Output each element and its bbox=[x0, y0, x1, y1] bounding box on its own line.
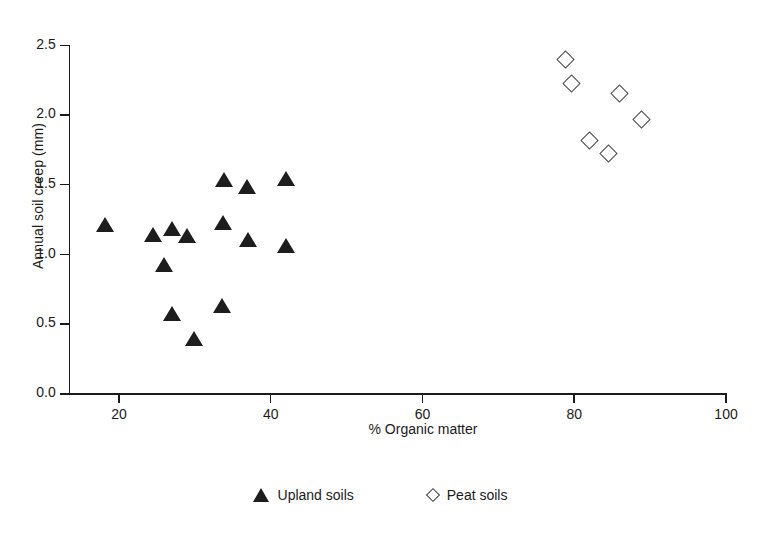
data-point-upland-soils bbox=[239, 232, 257, 247]
data-point-upland-soils bbox=[96, 217, 114, 232]
data-point-upland-soils bbox=[214, 215, 232, 230]
open-diamond-icon bbox=[426, 488, 440, 502]
x-axis-tick bbox=[725, 393, 727, 403]
y-axis-tick-label: 2.0 bbox=[12, 105, 56, 121]
data-point-upland-soils bbox=[185, 331, 203, 346]
y-axis-tick-label: 1.0 bbox=[12, 245, 56, 261]
legend-item-peat-soils: Peat soils bbox=[428, 487, 508, 503]
x-axis-tick bbox=[573, 393, 575, 403]
x-axis-tick bbox=[118, 393, 120, 403]
y-axis-tick bbox=[60, 184, 69, 186]
data-point-upland-soils bbox=[277, 171, 295, 186]
data-point-peat-soils bbox=[563, 74, 581, 92]
x-axis-tick-label: 80 bbox=[551, 406, 597, 422]
data-point-peat-soils bbox=[599, 144, 617, 162]
scatter-plot-figure: Annual soil creep (mm) % Organic matter … bbox=[0, 0, 760, 539]
data-point-peat-soils bbox=[610, 84, 628, 102]
y-axis-tick-label: 2.5 bbox=[12, 36, 56, 52]
x-axis-tick-label: 60 bbox=[400, 406, 446, 422]
x-axis-tick-label: 40 bbox=[248, 406, 294, 422]
data-point-upland-soils bbox=[178, 228, 196, 243]
data-point-upland-soils bbox=[238, 179, 256, 194]
data-point-upland-soils bbox=[277, 238, 295, 253]
y-axis-tick bbox=[60, 114, 69, 116]
y-axis-tick-top-stub bbox=[60, 45, 69, 47]
x-axis-tick bbox=[422, 393, 424, 403]
data-point-upland-soils bbox=[163, 306, 181, 321]
x-axis-tick-label: 100 bbox=[703, 406, 749, 422]
x-axis-tick-label: 20 bbox=[96, 406, 142, 422]
x-axis-title: % Organic matter bbox=[283, 421, 563, 437]
y-axis-tick-label: 0.5 bbox=[12, 314, 56, 330]
y-axis-tick bbox=[60, 393, 69, 395]
data-point-upland-soils bbox=[155, 257, 173, 272]
x-axis-line bbox=[69, 393, 727, 395]
data-point-peat-soils bbox=[632, 111, 650, 129]
y-axis-tick bbox=[60, 323, 69, 325]
legend-label-upland-soils: Upland soils bbox=[278, 487, 354, 503]
legend-label-peat-soils: Peat soils bbox=[447, 487, 508, 503]
data-point-peat-soils bbox=[556, 51, 574, 69]
y-axis-line bbox=[69, 45, 71, 395]
data-point-upland-soils bbox=[213, 298, 231, 313]
y-axis-tick bbox=[60, 254, 69, 256]
legend-item-upland-soils: Upland soils bbox=[253, 487, 354, 503]
data-point-upland-soils bbox=[144, 227, 162, 242]
chart-legend: Upland soils Peat soils bbox=[0, 487, 760, 503]
x-axis-tick bbox=[270, 393, 272, 403]
data-point-upland-soils bbox=[215, 172, 233, 187]
y-axis-tick-label: 0.0 bbox=[12, 384, 56, 400]
data-point-peat-soils bbox=[580, 131, 598, 149]
filled-triangle-icon bbox=[253, 488, 269, 502]
y-axis-tick-label: 1.5 bbox=[12, 175, 56, 191]
